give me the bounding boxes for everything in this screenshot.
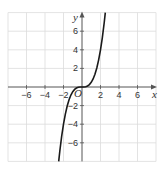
x-tick-label: −6	[21, 90, 31, 100]
x-tick-label: 4	[116, 90, 121, 100]
y-tick-label: −4	[68, 119, 78, 129]
y-tick-label: −2	[68, 101, 78, 111]
y-tick-label: 2	[73, 63, 78, 73]
y-tick-label: −6	[68, 138, 78, 148]
y-tick-label: 4	[73, 45, 78, 55]
x-tick-label: −4	[40, 90, 50, 100]
x-axis-label: x	[151, 88, 157, 100]
y-axis-label: y	[72, 11, 78, 23]
y-tick-label: 6	[73, 26, 78, 36]
x-tick-label: 6	[135, 90, 140, 100]
x-tick-label: 2	[98, 90, 103, 100]
cubic-function-graph: −6−4−2246−6−4−2246 x y O	[0, 0, 164, 175]
x-tick-label: −2	[58, 90, 68, 100]
